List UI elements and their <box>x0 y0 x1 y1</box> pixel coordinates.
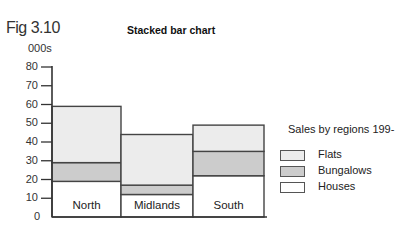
bar-segment-flats <box>193 125 264 151</box>
bar-segment-flats <box>52 106 121 162</box>
legend-swatch-flats <box>280 150 305 161</box>
category-label-north: North <box>52 199 121 211</box>
category-label-south: South <box>193 199 264 211</box>
legend-title: Sales by regions 199- <box>288 123 394 135</box>
legend-swatch-houses <box>280 182 305 193</box>
bar-segment-bungalows <box>193 151 264 175</box>
bar-segment-flats <box>121 135 193 186</box>
category-label-midlands: Midlands <box>121 199 193 211</box>
legend-swatch-bungalows <box>280 166 305 177</box>
legend-label-houses: Houses <box>318 180 355 192</box>
bar-segment-bungalows <box>52 163 121 182</box>
bar-segment-bungalows <box>121 185 193 194</box>
legend-label-bungalows: Bungalows <box>318 164 372 176</box>
legend-label-flats: Flats <box>318 148 342 160</box>
